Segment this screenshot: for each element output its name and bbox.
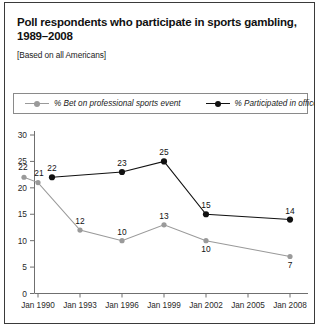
data-point-label: 12 [75,216,85,226]
page-title: Poll respondents who participate in spor… [5,3,314,43]
x-tick-label: Jan 1996 [105,301,139,310]
data-point-label: 22 [18,162,28,172]
legend-label-bet: % Bet on professional sports event [54,99,181,108]
legend-item-bet-on-professional-sports-event: % Bet on professional sports event [25,99,181,108]
x-tick-label: Jan 2008 [273,301,307,310]
chart-header: Poll respondents who participate in spor… [5,3,314,60]
x-tick-label: Jan 1999 [147,301,181,310]
y-tick-label: 0 [22,289,27,299]
series-line [52,161,290,219]
data-point [203,211,209,217]
legend-item-participated-in-office-pool: % Participated in office pool [206,99,315,108]
series-black-point-labels: 2223251514 [47,147,295,215]
y-tick-label: 10 [18,236,28,246]
data-point-label: 21 [34,168,44,178]
chart-figure: Poll respondents who participate in spor… [4,2,315,324]
y-tick-label: 5 [22,262,27,272]
data-point [287,216,293,222]
legend-label-pool: % Participated in office pool [235,99,315,108]
data-point [287,254,292,259]
data-point-label: 25 [159,147,169,157]
data-point-label: 10 [201,244,211,254]
y-tick-label: 15 [18,209,28,219]
footer-clipped-row [5,317,314,323]
y-tick-label: 30 [18,130,28,140]
data-point [119,169,125,175]
chart-plot-area: 051015202530 Jan 1990Jan 1993Jan 1996Jan… [5,121,315,321]
data-point-label: 10 [117,227,127,237]
data-point-label: 22 [47,163,57,173]
data-point [77,228,82,233]
chart-subtitle: [Based on all Americans] [5,43,314,60]
series-gray-point-labels: 2221121013107 [18,162,292,269]
data-point [161,158,167,164]
series-participated-in-office-pool [49,158,293,222]
data-point-label: 7 [288,260,293,270]
chart-legend: % Bet on professional sports event % Par… [13,93,308,114]
x-tick-label: Jan 2002 [189,301,223,310]
legend-marker-circle-gray-icon [25,99,49,108]
y-axis-ticks: 051015202530 [18,130,35,299]
legend-marker-circle-black-icon [206,99,230,108]
data-point [49,174,55,180]
x-axis-ticks: Jan 1990Jan 1993Jan 1996Jan 1999Jan 2002… [21,294,307,310]
x-tick-label: Jan 2005 [231,301,265,310]
data-point-label: 15 [201,200,211,210]
data-point [21,175,26,180]
y-tick-label: 20 [18,183,28,193]
data-point [203,238,208,243]
data-point [161,222,166,227]
x-tick-label: Jan 1990 [21,301,55,310]
data-point-label: 13 [159,211,169,221]
x-tick-label: Jan 1993 [63,301,97,310]
data-point-label: 23 [117,158,127,168]
data-point-label: 14 [285,206,295,216]
data-point [35,180,40,185]
chart-svg: 051015202530 Jan 1990Jan 1993Jan 1996Jan… [5,121,315,321]
data-point [119,238,124,243]
